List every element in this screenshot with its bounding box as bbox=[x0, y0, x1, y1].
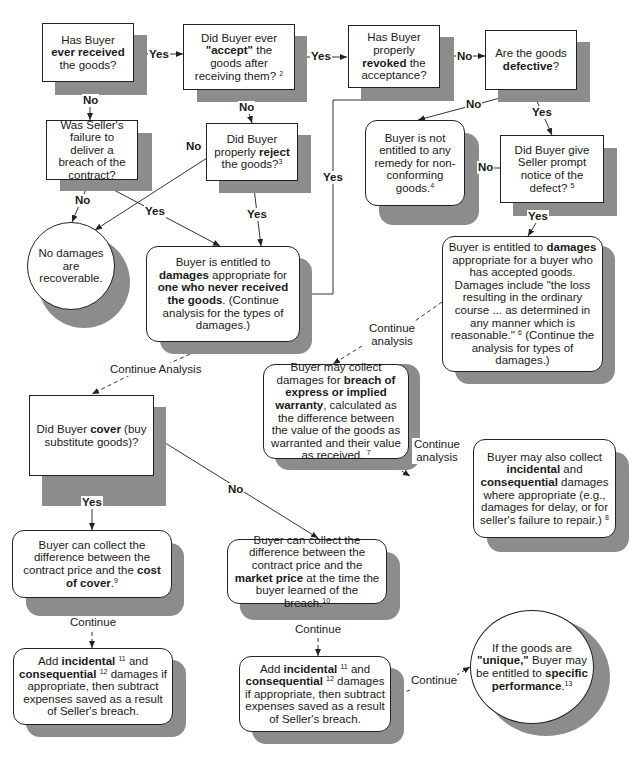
emphasis-text: incidental bbox=[506, 463, 560, 475]
footnote-ref: 9 bbox=[114, 577, 118, 584]
text: the goods? bbox=[60, 59, 117, 71]
footnote-ref: 3 bbox=[279, 158, 283, 165]
label-continue-analysis-n12: Continue analysis bbox=[412, 438, 462, 464]
footnote-ref: 10 bbox=[322, 597, 330, 604]
question-reject-goods: Did Buyer properly reject the goods?3 bbox=[206, 123, 298, 181]
footnote-ref: 4 bbox=[430, 182, 434, 189]
label-yes-n1-n2: Yes bbox=[148, 48, 170, 61]
emphasis-text: consequential bbox=[246, 675, 323, 687]
node-text: Did Buyer ever "accept" the goods after … bbox=[189, 32, 289, 82]
footnote-ref: 12 bbox=[326, 675, 334, 682]
emphasis-text: ever received bbox=[51, 46, 125, 58]
label-no-n6-n9: No bbox=[185, 140, 202, 153]
text: Are the goods bbox=[495, 47, 567, 59]
label-continue-n16: Continue bbox=[295, 623, 341, 636]
emphasis-text: defective bbox=[503, 60, 553, 72]
emphasis-text: cover bbox=[90, 423, 121, 435]
result-breach-of-warranty: Buyer may collect damages for breach of … bbox=[263, 364, 409, 459]
emphasis-text: reject bbox=[259, 146, 290, 158]
question-goods-defective: Are the goods defective? bbox=[485, 30, 577, 90]
label-text: Continue analysis bbox=[412, 438, 462, 464]
text: Buyer can collect the difference between… bbox=[249, 534, 365, 571]
text: the goods? bbox=[222, 158, 279, 170]
result-damages-accepted-goods: Buyer is entitled to damages appropriate… bbox=[442, 236, 603, 372]
node-text: Buyer is entitled to damages appropriate… bbox=[152, 256, 294, 332]
label-no-n4-n7: No bbox=[465, 98, 482, 111]
node-text: Buyer may also collect incidental and co… bbox=[479, 451, 610, 527]
result-specific-performance: If the goods are "unique," Buyer may be … bbox=[470, 610, 594, 724]
footnote-ref: 7 bbox=[367, 449, 371, 456]
node-text: Did Buyer properly reject the goods?3 bbox=[212, 133, 292, 171]
text: and bbox=[126, 655, 148, 667]
question-did-buyer-cover: Did Buyer cover (buy substitute goods)? bbox=[29, 395, 154, 476]
text: If the goods are bbox=[492, 642, 572, 654]
result-no-remedy: Buyer is not entitled to any remedy for … bbox=[365, 120, 465, 206]
node-text: If the goods are "unique," Buyer may be … bbox=[476, 642, 588, 692]
text: Buyer can collect the difference between… bbox=[23, 539, 150, 576]
label-yes-n8-n11: Yes bbox=[527, 210, 549, 223]
label-continue-analysis-n11: Continue analysis bbox=[362, 322, 422, 348]
node-text: No damages are recoverable. bbox=[33, 247, 109, 285]
text: Has Buyer bbox=[61, 34, 115, 46]
text: Add bbox=[38, 655, 62, 667]
text: Buyer is not entitled to any remedy for … bbox=[374, 132, 455, 194]
node-text: Add incidental 11 and consequential 12 d… bbox=[245, 663, 385, 726]
node-text: Buyer can collect the difference between… bbox=[233, 534, 381, 610]
label-yes-n13-n15: Yes bbox=[81, 496, 103, 509]
label-continue-n15: Continue bbox=[70, 616, 116, 629]
footnote-ref: 11 bbox=[340, 663, 347, 670]
question-ever-received: Has Buyer ever received the goods? bbox=[42, 23, 134, 82]
footnote-ref: 11 bbox=[118, 655, 125, 662]
emphasis-text: incidental bbox=[284, 663, 338, 675]
emphasis-text: "unique," bbox=[477, 654, 529, 666]
emphasis-text: consequential bbox=[19, 668, 96, 680]
node-text: Did Buyer cover (buy substitute goods)? bbox=[35, 423, 148, 448]
label-yes-n3-n10: Yes bbox=[322, 171, 344, 184]
emphasis-text: damages bbox=[159, 269, 209, 281]
text: Was Seller's failure to deliver a breach… bbox=[58, 119, 125, 181]
emphasis-text: consequential bbox=[481, 476, 558, 488]
label-no-n8-n7: No bbox=[477, 161, 494, 174]
node-text: Buyer may collect damages for breach of … bbox=[269, 361, 403, 462]
node-text: Was Seller's failure to deliver a breach… bbox=[52, 119, 132, 182]
question-prompt-notice: Did Buyer give Seller prompt notice of t… bbox=[500, 135, 604, 203]
result-cost-of-cover: Buyer can collect the difference between… bbox=[12, 530, 172, 598]
emphasis-text: market price bbox=[235, 572, 303, 584]
node-text: Has Buyer ever received the goods? bbox=[48, 34, 128, 72]
result-market-price: Buyer can collect the difference between… bbox=[227, 539, 387, 604]
label-continue-n18: Continue bbox=[411, 674, 457, 687]
node-text: Are the goods defective? bbox=[491, 47, 571, 72]
question-accept-goods: Did Buyer ever "accept" the goods after … bbox=[183, 24, 295, 90]
text: and bbox=[348, 663, 370, 675]
node-text: Buyer can collect the difference between… bbox=[18, 539, 166, 589]
node-text: Buyer is entitled to damages appropriate… bbox=[448, 241, 597, 367]
emphasis-text: revoked bbox=[362, 57, 406, 69]
label-no-n1-n5: No bbox=[82, 94, 99, 107]
result-no-damages: No damages are recoverable. bbox=[27, 222, 115, 310]
text: appropriate for bbox=[209, 269, 287, 281]
label-no-n2-n6: No bbox=[238, 101, 255, 114]
text: Buyer is entitled to bbox=[449, 241, 547, 253]
label-yes-n4-n8: Yes bbox=[531, 106, 553, 119]
action-add-incidental-market: Add incidental 11 and consequential 12 d… bbox=[239, 656, 391, 732]
text: Add bbox=[260, 663, 284, 675]
text: Did Buyer bbox=[37, 423, 91, 435]
result-incidental-consequential: Buyer may also collect incidental and co… bbox=[473, 439, 616, 538]
label-no-n13-n16: No bbox=[227, 483, 244, 496]
footnote-ref: 5 bbox=[571, 182, 575, 189]
text: appropriate for a buyer who has accepted… bbox=[451, 254, 593, 342]
text: Did Buyer give Seller prompt notice of t… bbox=[515, 144, 590, 194]
footnote-ref: 2 bbox=[279, 70, 283, 77]
label-yes-n2-n3: Yes bbox=[310, 50, 332, 63]
node-text: Has Buyer properly revoked the acceptanc… bbox=[354, 31, 434, 81]
question-revoked-acceptance: Has Buyer properly revoked the acceptanc… bbox=[348, 25, 440, 88]
label-yes-n6-n10: Yes bbox=[246, 208, 268, 221]
label-yes-n5-n10: Yes bbox=[144, 205, 166, 218]
label-continue-analysis-n10: Continue Analysis bbox=[110, 363, 201, 376]
emphasis-text: "accept" bbox=[206, 44, 253, 56]
result-damages-never-received: Buyer is entitled to damages appropriate… bbox=[146, 246, 300, 342]
node-text: Add incidental 11 and consequential 12 d… bbox=[19, 655, 167, 718]
edge-n10-n13b bbox=[92, 375, 130, 394]
emphasis-text: damages bbox=[546, 241, 596, 253]
text: Buyer may also collect bbox=[487, 451, 602, 463]
